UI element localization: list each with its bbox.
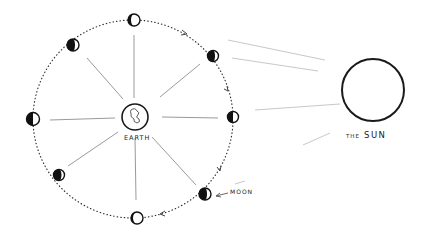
sun-label-prefix: THE — [346, 133, 360, 139]
moon-pointer-arrow — [216, 193, 228, 197]
moon-top — [128, 14, 140, 26]
earth-label: EARTH — [124, 134, 150, 142]
sun-label: SUN — [364, 130, 386, 140]
moon-right — [228, 112, 239, 123]
sun — [342, 59, 404, 121]
sun-rays — [228, 40, 340, 184]
moon-phases-diagram: EARTH THE SUN MOON — [0, 0, 430, 238]
moon-label: MOON — [230, 188, 253, 195]
moon-left — [27, 113, 40, 126]
diagram-canvas — [0, 0, 430, 238]
moon-upper-right — [208, 51, 219, 62]
moon-upper-left — [67, 39, 79, 51]
moon-lower-right — [199, 188, 211, 200]
moon-bottom — [131, 212, 143, 224]
moon-lower-left — [54, 170, 65, 181]
earth — [122, 104, 148, 130]
